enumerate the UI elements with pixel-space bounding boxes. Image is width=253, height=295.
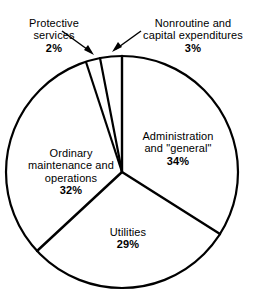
slice-label-utilities: Utilities 29% — [85, 213, 171, 264]
slice-percent-administration: 34% — [130, 155, 226, 168]
slice-label-protective-services-text: Protective services — [29, 17, 79, 42]
slice-percent-utilities: 29% — [85, 238, 171, 251]
slice-percent-ordinary-maintenance: 32% — [12, 184, 130, 197]
slice-label-utilities-text: Utilities — [110, 226, 146, 238]
slice-percent-nonroutine: 3% — [136, 42, 250, 55]
callout-arrowhead-nonroutine — [112, 42, 122, 52]
slice-percent-protective-services: 2% — [6, 42, 102, 55]
slice-label-ordinary-maintenance: Ordinary maintenance and operations 32% — [12, 134, 130, 210]
slice-label-administration: Administration and "general" 34% — [130, 117, 226, 180]
slice-label-nonroutine: Nonroutine and capital expenditures 3% — [136, 4, 250, 67]
slice-label-protective-services: Protective services 2% — [6, 4, 102, 67]
pie-chart: Protective services 2% Nonroutine and ca… — [0, 0, 253, 295]
slice-label-administration-text: Administration and "general" — [142, 130, 213, 155]
slice-label-ordinary-maintenance-text: Ordinary maintenance and operations — [28, 147, 114, 184]
slice-label-nonroutine-text: Nonroutine and capital expenditures — [143, 17, 243, 42]
